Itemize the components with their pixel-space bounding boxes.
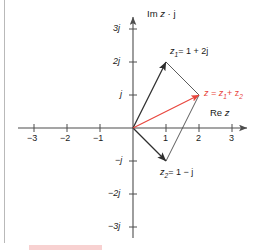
ytick-label: 3j — [113, 24, 120, 33]
real-axis-var: z — [225, 107, 230, 118]
xtick-label: −3 — [27, 134, 37, 143]
zsum-base: z = z — [204, 88, 223, 98]
figure-canvas: Im z · j Re z −3 −2 −1 1 2 3 3j 2j j −j … — [0, 0, 265, 251]
ytick-label: j — [120, 90, 122, 99]
xtick-label: 1 — [163, 134, 168, 143]
ytick-label: −2j — [108, 189, 120, 198]
z2-expression: = 1 − j — [168, 167, 193, 177]
xtick-label: −1 — [93, 134, 103, 143]
vector-label-z-sum: z = z1+ z2 — [204, 89, 243, 100]
ytick-label: 2j — [113, 57, 120, 66]
imaginary-axis-label: Im z · j — [147, 9, 176, 19]
xtick-label: −2 — [60, 134, 70, 143]
real-axis-prefix: Re — [210, 107, 222, 118]
vector-z1 — [133, 62, 166, 128]
real-axis-label: Re z — [210, 108, 230, 118]
xtick-label: 3 — [229, 134, 234, 143]
ytick-label: −j — [115, 156, 122, 165]
vector-label-z2: z2= 1 − j — [160, 168, 193, 179]
imag-axis-var: z — [160, 8, 165, 19]
zsum-subscript-2: 2 — [239, 93, 243, 100]
complex-plane-plot — [0, 0, 265, 251]
xtick-label: 2 — [196, 134, 201, 143]
z1-expression: = 1 + 2j — [178, 46, 208, 56]
ytick-label: −3j — [108, 222, 120, 231]
zsum-mid: + z — [227, 88, 239, 98]
vector-z-sum — [133, 95, 199, 128]
vector-z2 — [133, 128, 166, 161]
imag-axis-suffix: · j — [168, 8, 176, 19]
vector-label-z1: z1= 1 + 2j — [170, 47, 208, 58]
parallelogram-construction — [166, 62, 199, 161]
imag-axis-prefix: Im — [147, 8, 158, 19]
